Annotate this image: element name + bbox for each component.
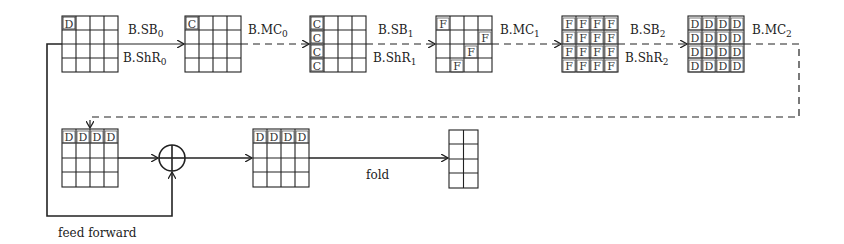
label-shr1: B.ShR1	[373, 51, 416, 67]
label-sb1: B.SB1	[378, 23, 413, 39]
cell-letter: C	[188, 18, 196, 31]
cell-letter: D	[270, 131, 279, 144]
cell-letter: F	[439, 18, 447, 31]
cell-letter: D	[93, 131, 102, 144]
cell-letter: F	[565, 46, 573, 59]
cell-letter: F	[579, 18, 587, 31]
cell-letter: F	[467, 46, 475, 59]
cell-letter: F	[565, 60, 573, 73]
cell-letter: D	[691, 46, 700, 59]
cell-letter: D	[719, 18, 728, 31]
cell-letter: D	[705, 18, 714, 31]
fold-label: fold	[366, 168, 390, 182]
xor-icon	[159, 145, 185, 171]
label-shr0: B.ShR0	[123, 51, 167, 67]
cell-letter: F	[579, 46, 587, 59]
cell-letter: F	[593, 32, 601, 45]
aes-round-diagram: DCCCCCFFFFFFFFFFFFFFFFFFFFDDDDDDDDDDDDDD…	[0, 0, 844, 244]
cell-letter: F	[607, 18, 615, 31]
cell-letter: F	[607, 46, 615, 59]
cell-letter: F	[593, 60, 601, 73]
cell-letter: F	[579, 60, 587, 73]
cell-letter: D	[65, 131, 74, 144]
cell-letter: D	[719, 60, 728, 73]
cell-letter: D	[79, 131, 88, 144]
cell-letter: C	[313, 18, 321, 31]
cell-letter: D	[733, 46, 742, 59]
cell-letter: D	[733, 32, 742, 45]
cell-letter: F	[593, 46, 601, 59]
cell-letter: D	[284, 131, 293, 144]
cell-letter: D	[298, 131, 307, 144]
cell-letter: D	[691, 18, 700, 31]
label-mc1: B.MC1	[500, 23, 540, 39]
final-state-grid	[449, 130, 478, 188]
label-shr2: B.ShR2	[625, 51, 668, 67]
cell-letter: D	[65, 18, 74, 31]
cell-letter: D	[705, 46, 714, 59]
cell-letter: D	[733, 60, 742, 73]
cell-letter: F	[607, 32, 615, 45]
cell-letter: F	[579, 32, 587, 45]
cell-letter: F	[593, 18, 601, 31]
label-sb0: B.SB0	[128, 23, 164, 39]
cell-letter: D	[691, 32, 700, 45]
feed-forward-label: feed forward	[58, 226, 137, 240]
cell-letter: D	[107, 131, 116, 144]
cell-letter: F	[565, 32, 573, 45]
label-mc0: B.MC0	[248, 23, 288, 39]
cell-letter: F	[565, 18, 573, 31]
label-sb2: B.SB2	[630, 23, 665, 39]
cell-letter: D	[256, 131, 265, 144]
cell-letter: D	[733, 18, 742, 31]
cell-letter: F	[607, 60, 615, 73]
cell-letter: D	[719, 46, 728, 59]
feed-forward-path	[47, 44, 172, 216]
cell-letter: F	[453, 60, 461, 73]
cell-letter: C	[313, 60, 321, 73]
cell-letter: C	[313, 46, 321, 59]
cell-letter: D	[705, 32, 714, 45]
cell-letter: D	[691, 60, 700, 73]
cell-letter: D	[719, 32, 728, 45]
cell-letter: D	[705, 60, 714, 73]
cell-letter: F	[481, 32, 489, 45]
label-mc2: B.MC2	[752, 23, 792, 39]
cell-letter: C	[313, 32, 321, 45]
